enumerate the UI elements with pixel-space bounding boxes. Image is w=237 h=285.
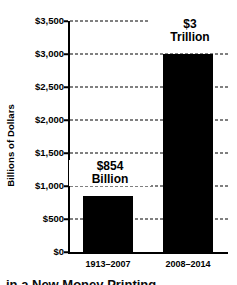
- y-axis-tick-labels: $0$500$1,000$1,500$2,000$2,500$3,000$3,5…: [14, 0, 64, 285]
- x-axis-category-label: 2008–2014: [143, 259, 233, 269]
- plot-area: $854Billion1913–2007$3Trillion2008–2014: [68, 21, 228, 252]
- y-axis-tick-label: $2,500: [18, 82, 64, 92]
- y-axis-tick-label: $500: [18, 214, 64, 224]
- bar-value-label: $3Trillion: [149, 18, 231, 44]
- y-axis-tick: [64, 53, 68, 55]
- y-axis-tick-label: $3,000: [18, 49, 64, 59]
- y-axis-tick: [64, 185, 68, 187]
- bar-value-label-line1: $854: [71, 160, 149, 173]
- y-axis-tick-label: $1,000: [18, 181, 64, 191]
- y-axis-tick: [64, 152, 68, 154]
- figure-caption: in a New Money Printing: [6, 277, 156, 285]
- y-axis-tick: [64, 86, 68, 88]
- y-axis-tick: [64, 251, 68, 253]
- y-axis-tick-label: $3,500: [18, 16, 64, 26]
- y-axis-line: [68, 21, 70, 252]
- y-axis-tick: [64, 20, 68, 22]
- x-axis-line: [68, 252, 228, 254]
- y-axis-tick: [64, 218, 68, 220]
- bar-value-label-line2: Trillion: [151, 31, 229, 44]
- bar-value-label-line1: $3: [151, 18, 229, 31]
- bar: [163, 54, 213, 252]
- x-axis-category-label: 1913–2007: [63, 259, 153, 269]
- bar-chart-figure: Billions of Dollars $0$500$1,000$1,500$2…: [0, 0, 237, 285]
- y-axis-tick-label: $1,500: [18, 148, 64, 158]
- bar: [83, 196, 133, 252]
- y-axis-tick-label: $2,000: [18, 115, 64, 125]
- bar-value-label-line2: Billion: [71, 173, 149, 186]
- y-axis-tick-label: $0: [18, 247, 64, 257]
- y-axis-tick: [64, 119, 68, 121]
- bar-value-label: $854Billion: [69, 160, 151, 186]
